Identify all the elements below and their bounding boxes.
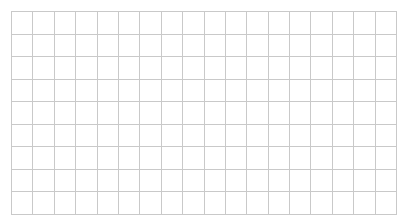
grid-cell	[269, 192, 290, 215]
grid-cell	[98, 170, 119, 193]
grid-cell	[290, 125, 311, 148]
grid-cell	[376, 192, 397, 215]
grid-cell	[205, 80, 226, 103]
grid-cell	[55, 57, 76, 80]
grid-cell	[98, 147, 119, 170]
grid-cell	[226, 80, 247, 103]
grid-cell	[55, 192, 76, 215]
grid-cell	[333, 147, 354, 170]
grid-cell	[376, 102, 397, 125]
grid-cell	[33, 80, 54, 103]
grid-cell	[290, 192, 311, 215]
grid-cell	[76, 192, 97, 215]
grid-cell	[183, 80, 204, 103]
grid-cell	[119, 170, 140, 193]
grid-cell	[205, 12, 226, 35]
grid-cell	[376, 80, 397, 103]
grid-cell	[205, 57, 226, 80]
grid-cell	[183, 102, 204, 125]
grid-cell	[311, 35, 332, 58]
grid-cell	[183, 170, 204, 193]
grid-cell	[226, 125, 247, 148]
grid-cell	[33, 35, 54, 58]
grid-cell	[205, 170, 226, 193]
grid-cell	[354, 102, 375, 125]
empty-grid	[11, 11, 397, 215]
grid-cell	[333, 170, 354, 193]
grid-cell	[119, 80, 140, 103]
grid-cell	[98, 125, 119, 148]
grid-cell	[333, 35, 354, 58]
grid-cell	[376, 170, 397, 193]
grid-cell	[226, 147, 247, 170]
grid-cell	[226, 170, 247, 193]
grid-cell	[55, 80, 76, 103]
grid-cell	[269, 147, 290, 170]
grid-cell	[376, 57, 397, 80]
grid-cell	[76, 125, 97, 148]
grid-cell	[183, 57, 204, 80]
grid-cell	[55, 147, 76, 170]
grid-cell	[311, 102, 332, 125]
grid-cell	[183, 192, 204, 215]
grid-cell	[311, 170, 332, 193]
grid-cell	[119, 35, 140, 58]
grid-cell	[290, 170, 311, 193]
grid-cell	[205, 147, 226, 170]
grid-cell	[354, 125, 375, 148]
grid-cell	[119, 57, 140, 80]
grid-cell	[183, 147, 204, 170]
grid-cell	[247, 192, 268, 215]
grid-cell	[247, 102, 268, 125]
grid-cell	[333, 80, 354, 103]
grid-cell	[12, 192, 33, 215]
grid-cell	[98, 57, 119, 80]
grid-cell	[311, 80, 332, 103]
grid-cell	[119, 102, 140, 125]
grid-cell	[183, 12, 204, 35]
grid-cell	[269, 170, 290, 193]
grid-cell	[140, 192, 161, 215]
grid-cell	[162, 192, 183, 215]
grid-cell	[98, 35, 119, 58]
grid-cell	[311, 57, 332, 80]
grid-cell	[290, 57, 311, 80]
grid-cell	[12, 80, 33, 103]
grid-cell	[140, 102, 161, 125]
grid-cell	[354, 192, 375, 215]
grid-cell	[162, 125, 183, 148]
grid-cell	[98, 12, 119, 35]
grid-cell	[376, 147, 397, 170]
grid-cell	[333, 192, 354, 215]
grid-cell	[354, 80, 375, 103]
grid-cell	[311, 147, 332, 170]
grid-cell	[33, 12, 54, 35]
grid-cell	[354, 147, 375, 170]
grid-cell	[140, 125, 161, 148]
grid-cell	[33, 125, 54, 148]
grid-cell	[247, 12, 268, 35]
grid-cell	[55, 102, 76, 125]
grid-cell	[376, 12, 397, 35]
grid-cell	[269, 35, 290, 58]
grid-cell	[12, 102, 33, 125]
grid-cell	[226, 57, 247, 80]
grid-cell	[290, 102, 311, 125]
grid-cell	[247, 170, 268, 193]
grid-cell	[162, 12, 183, 35]
grid-cell	[205, 35, 226, 58]
grid-cell	[290, 147, 311, 170]
grid-cell	[76, 147, 97, 170]
grid-cell	[205, 125, 226, 148]
grid-cell	[33, 147, 54, 170]
grid-cell	[140, 35, 161, 58]
grid-cell	[205, 102, 226, 125]
grid-cell	[183, 35, 204, 58]
grid-cell	[33, 57, 54, 80]
grid-cell	[76, 35, 97, 58]
grid-cell	[119, 192, 140, 215]
grid-cell	[247, 80, 268, 103]
grid-cell	[290, 12, 311, 35]
grid-cell	[354, 35, 375, 58]
grid-cell	[98, 192, 119, 215]
